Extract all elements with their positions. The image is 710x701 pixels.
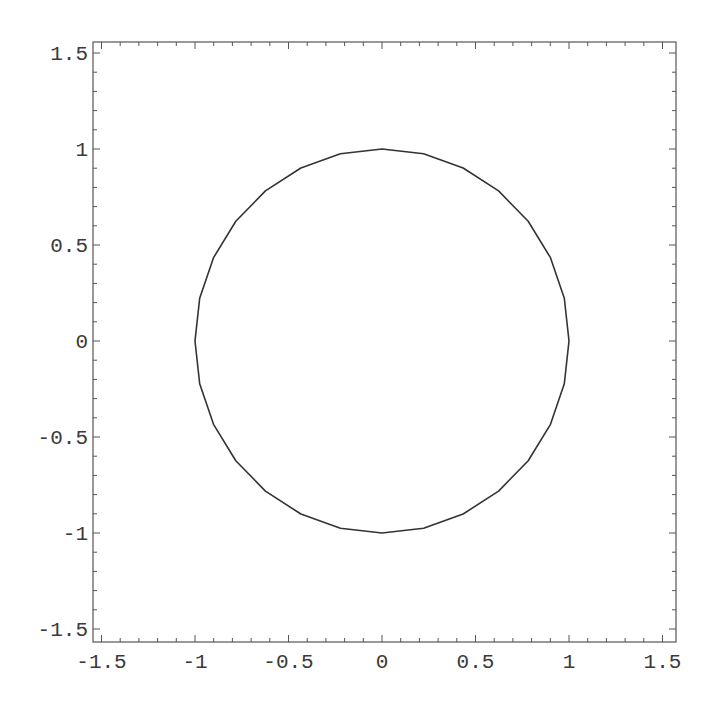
y-axis-tick-labels: -1.5-1-0.500.511.5 bbox=[38, 43, 88, 642]
y-tick-label: -1 bbox=[63, 523, 88, 546]
tick-marks bbox=[93, 42, 676, 642]
x-tick-label: 1.5 bbox=[644, 651, 682, 674]
plot-frame bbox=[93, 42, 676, 642]
x-tick-label: 0 bbox=[376, 651, 389, 674]
x-tick-label: -1.5 bbox=[76, 651, 126, 674]
y-tick-label: 0 bbox=[75, 331, 88, 354]
y-tick-label: 1 bbox=[75, 139, 88, 162]
circle-plot: -1.5-1-0.500.511.5 -1.5-1-0.500.511.5 bbox=[0, 0, 710, 701]
x-axis-tick-labels: -1.5-1-0.500.511.5 bbox=[76, 651, 681, 674]
x-tick-label: 1 bbox=[563, 651, 576, 674]
y-tick-label: -0.5 bbox=[38, 427, 88, 450]
x-tick-label: -1 bbox=[182, 651, 207, 674]
x-tick-label: -0.5 bbox=[263, 651, 313, 674]
x-tick-label: 0.5 bbox=[457, 651, 495, 674]
y-tick-label: -1.5 bbox=[38, 619, 88, 642]
y-tick-label: 1.5 bbox=[50, 43, 88, 66]
y-tick-label: 0.5 bbox=[50, 235, 88, 258]
unit-circle-curve bbox=[195, 149, 569, 533]
